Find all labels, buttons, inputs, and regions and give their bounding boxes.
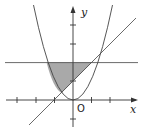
function-graph-diagram: y x O — [0, 0, 146, 132]
y-axis-label: y — [81, 7, 87, 18]
shaded-region — [47, 63, 92, 94]
graph-canvas — [0, 0, 146, 132]
origin-label: O — [77, 104, 85, 114]
x-axis-arrow-icon — [131, 98, 138, 103]
y-axis-arrow-icon — [71, 6, 76, 13]
x-axis-label: x — [130, 104, 136, 115]
